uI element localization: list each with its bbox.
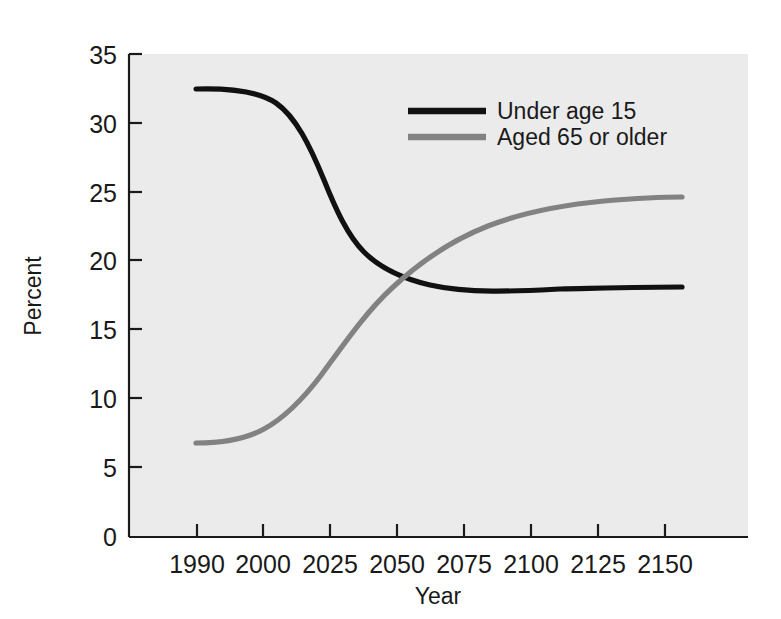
x-tick-label-1990: 1990 [169,550,225,578]
y-tick-marks [129,54,142,467]
x-tick-label-2100: 2100 [503,550,559,578]
x-tick-label-2150: 2150 [637,550,693,578]
chart-figure: 35 30 25 20 15 10 5 0 1990 2000 2025 205… [0,0,781,619]
legend-label-aged-65-or-older: Aged 65 or older [497,124,667,150]
y-tick-label-5: 5 [103,454,117,482]
chart-legend: Under age 15 Aged 65 or older [408,98,667,150]
y-tick-label-30: 30 [89,110,117,138]
chart-svg: 35 30 25 20 15 10 5 0 1990 2000 2025 205… [0,0,781,619]
legend-label-under-age-15: Under age 15 [497,98,636,124]
y-tick-label-0: 0 [103,523,117,551]
x-tick-label-2050: 2050 [369,550,425,578]
y-tick-label-15: 15 [89,316,117,344]
x-axis-title: Year [415,583,462,609]
x-tick-label-2125: 2125 [570,550,626,578]
y-tick-label-35: 35 [89,41,117,69]
series-line-aged-65-or-older [196,197,682,443]
y-tick-label-25: 25 [89,179,117,207]
x-tick-label-2025: 2025 [302,550,358,578]
x-tick-marks [197,524,665,537]
y-tick-label-10: 10 [89,385,117,413]
y-tick-label-20: 20 [89,247,117,275]
y-axis-title: Percent [20,256,46,336]
x-tick-label-2000: 2000 [235,550,291,578]
x-tick-label-2075: 2075 [436,550,492,578]
